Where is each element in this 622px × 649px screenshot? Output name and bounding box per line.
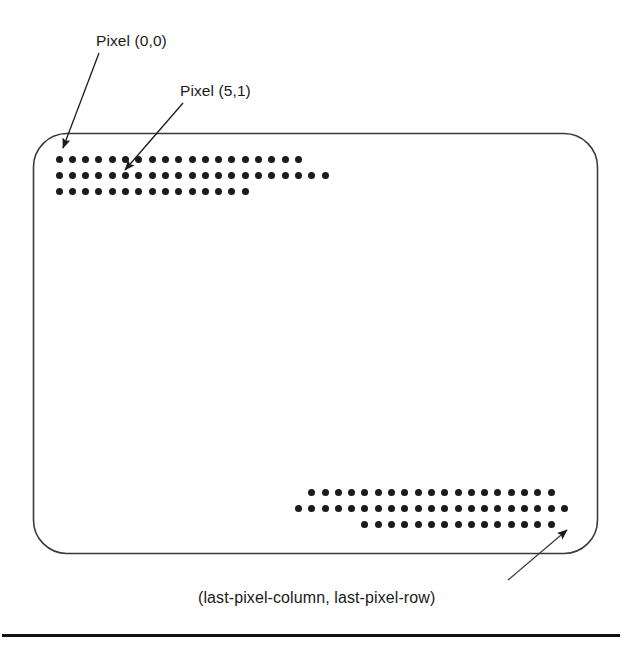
pixel-dot [428, 505, 435, 512]
pixel-dot [521, 505, 528, 512]
pixel-dot [56, 188, 63, 195]
pixel-dot [268, 172, 275, 179]
pixel-dot [508, 521, 515, 528]
label-pixel-origin: Pixel (0,0) [96, 31, 167, 50]
pixel-dot [228, 172, 235, 179]
pixel-dot [95, 172, 102, 179]
pixel-dot [135, 156, 142, 163]
pixel-dot [428, 489, 435, 496]
pixel-dot [335, 489, 342, 496]
pixel-dot [375, 489, 382, 496]
pixel-dot [548, 489, 555, 496]
pixel-dot [521, 521, 528, 528]
pixel-dot [441, 521, 448, 528]
pixel-dot [455, 521, 462, 528]
pixel-dot [455, 505, 462, 512]
pixel-dot [308, 505, 315, 512]
pixel-dot [548, 521, 555, 528]
pixel-dot [375, 505, 382, 512]
pixel-dot [175, 172, 182, 179]
pixel-dot [202, 172, 209, 179]
pixel-dot [215, 172, 222, 179]
screen-outline-fade [420, 470, 598, 554]
pixel-dot [415, 521, 422, 528]
pixel-dot [375, 521, 382, 528]
pixel-dot [401, 489, 408, 496]
pixel-dot [428, 521, 435, 528]
pixel-dot [548, 505, 555, 512]
pixel-dot [69, 188, 76, 195]
pixel-dot [508, 505, 515, 512]
pixel-dot [468, 521, 475, 528]
label-last-pixel-caption: (last-pixel-column, last-pixel-row) [198, 588, 435, 607]
pixel-dot [348, 505, 355, 512]
pixel-dot [415, 505, 422, 512]
pixel-dot [202, 156, 209, 163]
pixel-dot [69, 172, 76, 179]
pixel-dot [534, 505, 541, 512]
pixel-dot [388, 521, 395, 528]
pixel-dot [109, 172, 116, 179]
pixel-dot [56, 156, 63, 163]
pixel-dot [175, 156, 182, 163]
pixel-dot [122, 172, 129, 179]
pixel-dot [455, 489, 462, 496]
pixel-dot [534, 489, 541, 496]
pixel-dot [308, 489, 315, 496]
pixel-dot [255, 156, 262, 163]
pixel-dot [508, 489, 515, 496]
pixel-dot [135, 188, 142, 195]
pixel-dot [162, 188, 169, 195]
pixel-dot [189, 188, 196, 195]
diagram-artwork [0, 0, 622, 649]
pixel-dot [308, 172, 315, 179]
pixel-dot [122, 188, 129, 195]
pixel-dot [202, 188, 209, 195]
pixel-dot [388, 489, 395, 496]
pixel-dot [295, 156, 302, 163]
pixel-dot [82, 172, 89, 179]
pixel-dot [82, 156, 89, 163]
pixel-dot [401, 521, 408, 528]
pixel-dot [122, 156, 129, 163]
pixel-dot [149, 156, 156, 163]
pixel-dot [468, 505, 475, 512]
pixel-dot [561, 505, 568, 512]
pixel-dot [162, 156, 169, 163]
pixel-coordinate-diagram: Pixel (0,0) Pixel (5,1) (last-pixel-colu… [0, 0, 622, 649]
pixel-dot [149, 188, 156, 195]
pixel-dot [388, 505, 395, 512]
pixel-dot [135, 172, 142, 179]
pixel-dot [242, 188, 249, 195]
pixel-dot [481, 489, 488, 496]
pixel-dot [348, 489, 355, 496]
pixel-dot [361, 521, 368, 528]
label-pixel-five-one: Pixel (5,1) [180, 81, 251, 100]
pixel-dot [255, 172, 262, 179]
pixel-dot [295, 505, 302, 512]
pixel-dot [95, 156, 102, 163]
pixel-dot [189, 156, 196, 163]
pixel-dot [441, 505, 448, 512]
pixel-dot [215, 188, 222, 195]
pixel-dot [56, 172, 63, 179]
pixel-dot [242, 156, 249, 163]
pixel-dot [149, 172, 156, 179]
pixel-dot [69, 156, 76, 163]
pixel-dot [481, 505, 488, 512]
pixel-dot [361, 505, 368, 512]
pixel-dot [534, 521, 541, 528]
pixel-dot [468, 489, 475, 496]
pixel-dot [322, 172, 329, 179]
pixel-dot [295, 172, 302, 179]
leader-line-last-pixel [508, 530, 567, 580]
pixel-dot [162, 172, 169, 179]
pixel-dot [494, 521, 501, 528]
pixel-dot [268, 156, 275, 163]
pixel-dot [361, 489, 368, 496]
pixel-dot [109, 156, 116, 163]
pixel-dot [481, 521, 488, 528]
pixel-dot [189, 172, 196, 179]
pixel-dot [95, 188, 102, 195]
pixel-dot [282, 172, 289, 179]
